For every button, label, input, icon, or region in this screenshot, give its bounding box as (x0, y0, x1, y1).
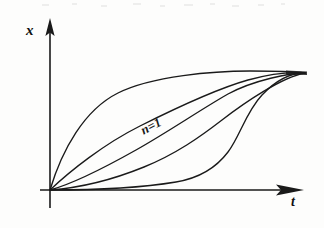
curve-convergence-mark (286, 71, 307, 76)
x-axis-label: t (291, 195, 295, 209)
data-curve-5 (50, 73, 305, 190)
plot-area (0, 0, 324, 228)
figure-canvas: x t n=1 (0, 0, 324, 228)
curve-group (50, 71, 305, 190)
y-axis-label: x (26, 23, 33, 38)
